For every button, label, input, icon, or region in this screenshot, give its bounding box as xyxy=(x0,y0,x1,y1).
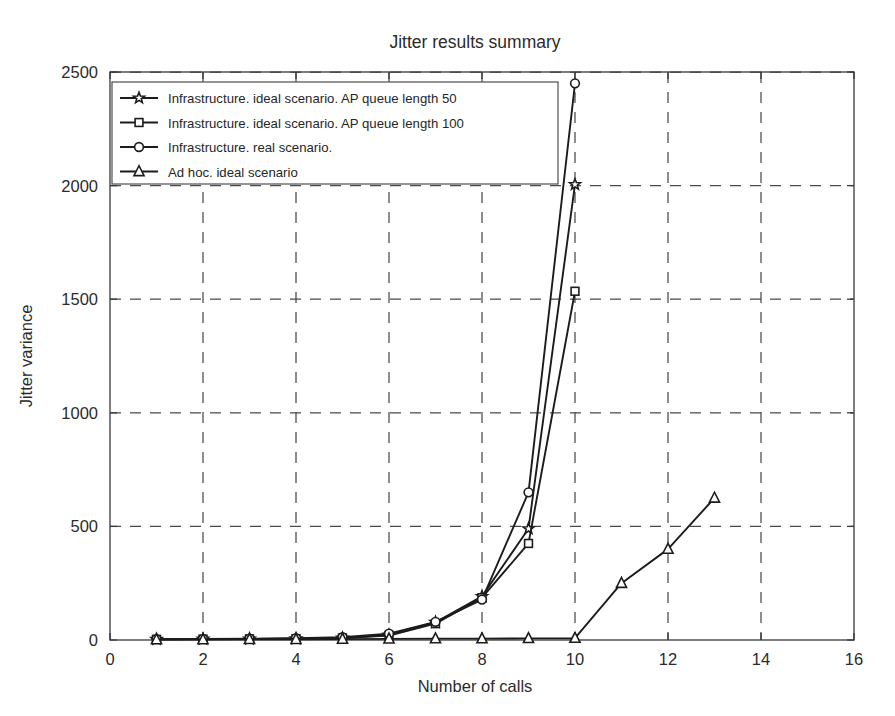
chart-legend: Infrastructure. ideal scenario. AP queue… xyxy=(112,82,558,184)
legend-label: Infrastructure. ideal scenario. AP queue… xyxy=(168,91,457,106)
marker-circle xyxy=(571,79,580,88)
y-axis-label: Jitter variance xyxy=(17,305,35,408)
legend-entry-1: Infrastructure. ideal scenario. AP queue… xyxy=(120,116,464,131)
legend-label: Infrastructure. real scenario. xyxy=(168,140,332,155)
legend-entry-0: Infrastructure. ideal scenario. AP queue… xyxy=(120,91,457,106)
x-tick-label: 2 xyxy=(198,650,207,668)
x-tick-label: 16 xyxy=(845,650,863,668)
y-tick-label: 2500 xyxy=(61,63,98,81)
y-tick-label: 1500 xyxy=(61,290,98,308)
marker-square xyxy=(571,287,579,295)
legend-label: Ad hoc. ideal scenario xyxy=(168,165,298,180)
y-tick-label: 2000 xyxy=(61,177,98,195)
x-tick-label: 10 xyxy=(566,650,584,668)
x-tick-label: 0 xyxy=(105,650,114,668)
jitter-results-line-chart: Jitter results summary 0246810121416 050… xyxy=(0,0,895,716)
x-tick-label: 8 xyxy=(477,650,486,668)
x-tick-label: 14 xyxy=(752,650,770,668)
marker-square xyxy=(135,119,143,127)
legend-label: Infrastructure. ideal scenario. AP queue… xyxy=(168,116,464,131)
marker-circle xyxy=(478,595,487,604)
marker-circle xyxy=(524,488,533,497)
x-tick-label: 12 xyxy=(659,650,677,668)
marker-circle xyxy=(431,617,440,626)
chart-title: Jitter results summary xyxy=(389,32,560,52)
x-tick-label: 4 xyxy=(291,650,300,668)
marker-circle xyxy=(135,143,144,152)
x-axis-label: Number of calls xyxy=(418,677,533,695)
y-tick-label: 500 xyxy=(70,517,98,535)
marker-square xyxy=(525,540,533,548)
y-tick-label: 1000 xyxy=(61,404,98,422)
y-tick-label: 0 xyxy=(89,631,98,649)
chart-figure: Jitter results summary 0246810121416 050… xyxy=(0,0,895,716)
x-tick-label: 6 xyxy=(384,650,393,668)
